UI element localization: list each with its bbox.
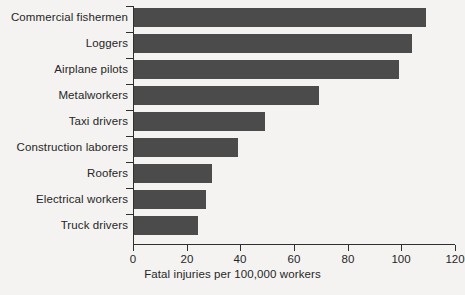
x-axis-tick-label: 100 bbox=[381, 252, 421, 266]
x-axis-tick-label: 120 bbox=[435, 252, 465, 266]
x-axis-tick-label: 40 bbox=[220, 252, 260, 266]
bar bbox=[134, 86, 319, 105]
y-axis-tick bbox=[126, 6, 133, 7]
y-axis-tick bbox=[126, 188, 133, 189]
bar bbox=[134, 8, 426, 27]
x-axis-tick bbox=[240, 245, 241, 251]
category-label: Electrical workers bbox=[36, 190, 128, 209]
category-label: Commercial fishermen bbox=[11, 8, 128, 27]
x-axis-tick-label: 80 bbox=[328, 252, 368, 266]
bar bbox=[134, 60, 399, 79]
category-label: Loggers bbox=[86, 34, 128, 53]
y-axis-line bbox=[133, 6, 134, 245]
y-axis-tick bbox=[126, 214, 133, 215]
y-axis-tick bbox=[126, 110, 133, 111]
y-axis-tick bbox=[126, 32, 133, 33]
y-axis-tick bbox=[126, 84, 133, 85]
category-label: Metalworkers bbox=[58, 86, 128, 105]
x-axis-tick bbox=[187, 245, 188, 251]
x-axis-tick bbox=[401, 245, 402, 251]
x-axis-tick bbox=[294, 245, 295, 251]
y-axis-tick bbox=[126, 58, 133, 59]
category-label: Truck drivers bbox=[61, 216, 128, 235]
x-axis-tick bbox=[348, 245, 349, 251]
x-axis-tick bbox=[455, 245, 456, 251]
bar bbox=[134, 138, 238, 157]
x-axis-tick-label: 60 bbox=[274, 252, 314, 266]
bar bbox=[134, 164, 212, 183]
x-axis-tick-label: 0 bbox=[113, 252, 153, 266]
y-axis-tick bbox=[126, 162, 133, 163]
category-label: Construction laborers bbox=[17, 138, 128, 157]
bar bbox=[134, 112, 265, 131]
x-axis-tick-label: 20 bbox=[167, 252, 207, 266]
category-label: Taxi drivers bbox=[69, 112, 128, 131]
bar bbox=[134, 190, 206, 209]
bar bbox=[134, 34, 412, 53]
bar bbox=[134, 216, 198, 235]
category-label: Roofers bbox=[87, 164, 128, 183]
y-axis-tick bbox=[126, 136, 133, 137]
x-axis-title: Fatal injuries per 100,000 workers bbox=[0, 268, 465, 280]
bar-chart: Commercial fishermen Loggers Airplane pi… bbox=[0, 0, 465, 295]
x-axis-tick bbox=[133, 245, 134, 251]
category-label: Airplane pilots bbox=[54, 60, 128, 79]
